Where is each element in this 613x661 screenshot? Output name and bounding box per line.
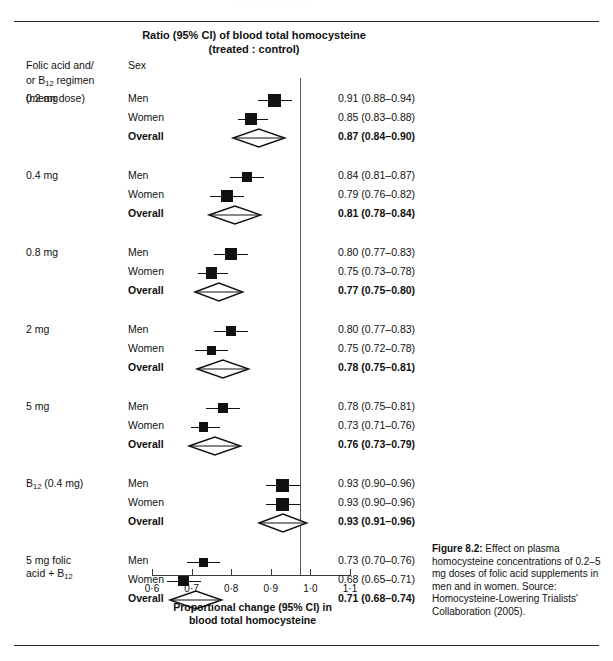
row-sex-label: Overall	[128, 284, 164, 296]
row-estimate-text: 0.75 (0.72–0.78)	[338, 342, 415, 354]
summary-diamond-marker	[257, 512, 309, 534]
row-sex-label: Overall	[128, 130, 164, 142]
point-estimate-marker	[242, 172, 253, 183]
row-estimate-text: 0.76 (0.73–0.79)	[338, 438, 415, 450]
row-sex-label: Men	[128, 323, 148, 335]
point-estimate-marker	[199, 422, 209, 432]
point-estimate-marker	[245, 113, 257, 125]
point-estimate-marker	[221, 190, 233, 202]
reference-line	[300, 78, 301, 575]
row-estimate-text: 0.91 (0.88–0.94)	[338, 92, 415, 104]
point-estimate-marker	[226, 326, 236, 336]
row-sex-label: Overall	[128, 438, 164, 450]
point-estimate-marker	[225, 248, 237, 260]
point-estimate-marker	[268, 94, 281, 107]
row-sex-label: Men	[128, 246, 148, 258]
row-sex-label: Overall	[128, 361, 164, 373]
group-label-line: B12 (0.4 mg)	[26, 477, 83, 493]
x-axis-title-line2: blood total homocysteine	[120, 614, 385, 627]
row-estimate-text: 0.78 (0.75–0.81)	[338, 400, 415, 412]
row-estimate-text: 0.77 (0.75–0.80)	[338, 284, 415, 296]
row-sex-label: Women	[128, 419, 164, 431]
row-estimate-text: 0.93 (0.90–0.96)	[338, 496, 415, 508]
x-axis-tick-label: 0·9	[251, 583, 291, 594]
regimen-b-subscript: 12	[45, 79, 53, 88]
row-sex-label: Women	[128, 111, 164, 123]
x-axis-title-line1: Proportional change (95% CI) in	[120, 601, 385, 614]
group-label: 0.2 mg	[26, 92, 58, 105]
row-sex-label: Men	[128, 400, 148, 412]
figure-caption-label: Figure 8.2:	[432, 543, 483, 554]
group-label: 0.8 mg	[26, 246, 58, 259]
row-sex-label: Men	[128, 477, 148, 489]
row-sex-label: Women	[128, 265, 164, 277]
x-axis-tick	[271, 569, 272, 575]
x-axis-tick	[152, 569, 153, 575]
x-axis-tick-label: 0·6	[132, 583, 172, 594]
row-sex-label: Men	[128, 554, 148, 566]
row-estimate-text: 0.73 (0.71–0.76)	[338, 419, 415, 431]
x-axis-tick-label: 0·7	[172, 583, 212, 594]
summary-diamond-marker	[193, 281, 245, 303]
group-label: 0.4 mg	[26, 169, 58, 182]
group-label: B12 (0.4 mg)	[26, 477, 83, 493]
summary-diamond-marker	[207, 204, 263, 226]
group-label-subscript: 12	[64, 572, 72, 581]
x-axis-tick-label: 0·8	[211, 583, 251, 594]
point-estimate-marker	[218, 403, 228, 413]
column-header-sex: Sex	[128, 58, 146, 73]
column-header-regimen-line2: or B12 regimen	[26, 73, 131, 92]
row-sex-label: Women	[128, 342, 164, 354]
row-estimate-text: 0.73 (0.70–0.76)	[338, 554, 415, 566]
bottom-rule	[14, 645, 599, 646]
row-sex-label: Women	[128, 496, 164, 508]
row-estimate-text: 0.84 (0.81–0.87)	[338, 169, 415, 181]
x-axis-tick	[350, 569, 351, 575]
row-sex-label: Overall	[128, 207, 164, 219]
row-estimate-text: 0.81 (0.78–0.84)	[338, 207, 415, 219]
summary-diamond-marker	[187, 435, 243, 457]
figure-caption: Figure 8.2: Effect on plasma homocystein…	[432, 543, 604, 619]
row-sex-label: Men	[128, 92, 148, 104]
group-label: 5 mg folicacid + B12	[26, 554, 73, 583]
top-rule	[14, 21, 599, 22]
row-estimate-text: 0.75 (0.73–0.78)	[338, 265, 415, 277]
point-estimate-marker	[206, 267, 218, 279]
page-running-head: · ··· ··· ····· ···	[230, 1, 610, 10]
summary-diamond-marker	[195, 358, 251, 380]
row-estimate-text: 0.85 (0.83–0.88)	[338, 111, 415, 123]
summary-diamond-marker	[231, 127, 287, 149]
x-axis-tick	[231, 569, 232, 575]
row-estimate-text: 0.80 (0.77–0.83)	[338, 246, 415, 258]
point-estimate-marker	[276, 479, 289, 492]
row-sex-label: Overall	[128, 515, 164, 527]
group-label-subscript: 12	[33, 482, 41, 491]
row-estimate-text: 0.78 (0.75–0.81)	[338, 361, 415, 373]
group-label: 2 mg	[26, 323, 49, 336]
x-axis-title: Proportional change (95% CI) in blood to…	[120, 601, 385, 627]
column-header-regimen-line1: Folic acid and/	[26, 58, 131, 73]
group-label: 5 mg	[26, 400, 49, 413]
row-estimate-text: 0.93 (0.91–0.96)	[338, 515, 415, 527]
row-estimate-text: 0.93 (0.90–0.96)	[338, 477, 415, 489]
chart-title-line2: (treated : control)	[74, 42, 434, 56]
chart-title: Ratio (95% CI) of blood total homocystei…	[74, 28, 434, 56]
point-estimate-marker	[276, 498, 289, 511]
row-sex-label: Women	[128, 188, 164, 200]
x-axis-tick-label: 1·0	[290, 583, 330, 594]
x-axis-tick-label: 1·1	[330, 583, 370, 594]
group-label-line: acid + B12	[26, 567, 73, 583]
point-estimate-marker	[199, 558, 208, 567]
group-label-line: 5 mg folic	[26, 554, 73, 567]
row-sex-label: Men	[128, 169, 148, 181]
x-axis-tick	[192, 569, 193, 575]
point-estimate-marker	[207, 346, 216, 355]
regimen-suffix-text: regimen	[54, 74, 95, 86]
row-estimate-text: 0.79 (0.76–0.82)	[338, 188, 415, 200]
chart-title-line1: Ratio (95% CI) of blood total homocystei…	[74, 28, 434, 42]
figure-page: · ··· ··· ····· ··· Ratio (95% CI) of bl…	[0, 0, 613, 661]
row-estimate-text: 0.87 (0.84–0.90)	[338, 130, 415, 142]
row-estimate-text: 0.80 (0.77–0.83)	[338, 323, 415, 335]
regimen-b-text: or B	[26, 74, 45, 86]
x-axis-tick	[310, 569, 311, 575]
